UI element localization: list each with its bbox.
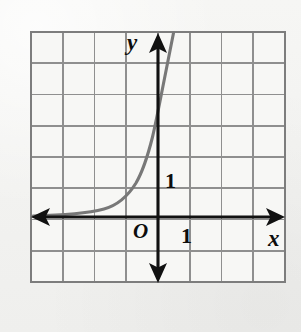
origin-label: O: [133, 221, 148, 242]
x-axis-tick-label-1: 1: [181, 225, 192, 247]
y-axis-tick-label-1: 1: [165, 170, 176, 192]
y-axis-label: y: [127, 31, 137, 54]
x-axis-label: x: [268, 227, 280, 250]
figure-page: y x O 1 1: [0, 0, 301, 332]
coordinate-graph: [0, 0, 301, 332]
